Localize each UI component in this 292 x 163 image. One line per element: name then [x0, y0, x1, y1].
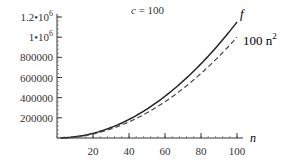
series-100n2-line	[61, 37, 237, 138]
chart-title: c = 100	[131, 4, 165, 16]
y-tick-label: 600000	[20, 72, 54, 84]
x-tick-label: 20	[88, 145, 100, 157]
series-label-f: f	[240, 6, 246, 21]
y-tick-label: 1•106	[29, 29, 53, 43]
x-tick-label: 60	[160, 145, 172, 157]
y-tick-label: 800000	[20, 51, 54, 63]
y-tick-label: 200000	[20, 112, 54, 124]
x-tick-label: 80	[196, 145, 208, 157]
series-f-line	[61, 22, 237, 138]
x-axis-label: n	[250, 131, 256, 145]
x-tick-label: 40	[124, 145, 136, 157]
x-tick-label: 100	[229, 145, 246, 157]
y-tick-label: 1.2•106	[20, 9, 53, 23]
y-axis: 2000004000006000008000001•1061.2•106	[20, 9, 62, 138]
y-tick-label: 400000	[20, 92, 54, 104]
x-axis: 20406080100	[57, 133, 246, 157]
chart: c = 100 2000004000006000008000001•1061.2…	[0, 0, 292, 163]
series-label-100n2: 100 n2	[243, 31, 277, 48]
